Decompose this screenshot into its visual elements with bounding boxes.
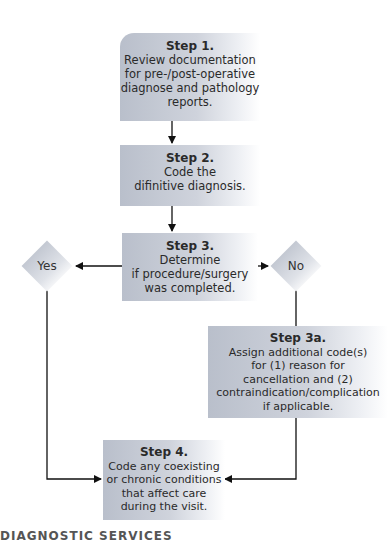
step1-box: Step 1. Review documentation for pre-/po…	[120, 33, 260, 121]
decision-yes: Yes	[21, 240, 73, 292]
arrow-step3a-to-step4	[225, 418, 296, 479]
step4-text: Code any coexisting or chronic condition…	[103, 460, 225, 514]
decision-no-label: No	[270, 240, 322, 292]
step2-text: Code the difinitive diagnosis.	[120, 165, 260, 193]
decision-yes-label: Yes	[21, 240, 73, 292]
step3a-box: Step 3a. Assign additional code(s) for (…	[208, 326, 388, 418]
decision-no: No	[270, 240, 322, 292]
step3-box: Step 3. Determine if procedure/surgery w…	[122, 233, 258, 301]
step2-title: Step 2.	[120, 151, 260, 165]
arrow-yes-to-step4	[47, 287, 101, 479]
step1-title: Step 1.	[120, 39, 260, 53]
step1-text: Review documentation for pre-/post-opera…	[120, 53, 260, 109]
section-heading-partial: DIAGNOSTIC SERVICES	[0, 529, 173, 543]
step3a-text: Assign additional code(s) for (1) reason…	[208, 346, 388, 414]
step3-text: Determine if procedure/surgery was compl…	[122, 253, 258, 295]
step3-title: Step 3.	[122, 239, 258, 253]
step4-box: Step 4. Code any coexisting or chronic c…	[103, 440, 225, 520]
step4-title: Step 4.	[103, 446, 225, 460]
step3a-title: Step 3a.	[208, 332, 388, 346]
step2-box: Step 2. Code the difinitive diagnosis.	[120, 145, 260, 206]
